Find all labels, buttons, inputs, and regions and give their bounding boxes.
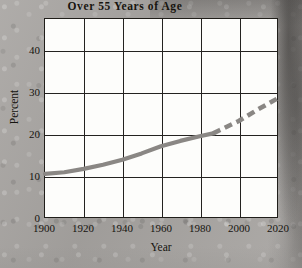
x-tick-2000: 2000 [217,223,261,234]
x-tick-1960: 1960 [139,223,183,234]
chart-title: Over 55 Years of Age [0,0,250,12]
x-tick-1980: 1980 [178,223,222,234]
y-tick-10: 10 [4,171,40,182]
y-axis-tick-labels: 403020100 [0,18,40,218]
chart-page: Over 55 Years of Age 403020100 190019201… [0,0,302,268]
series-solid-segment-0 [45,133,213,173]
data-series-line [45,19,277,217]
x-tick-2020: 2020 [256,223,300,234]
y-tick-40: 40 [4,45,40,56]
series-projected-segment-0 [213,99,277,134]
y-axis-title: Percent [8,72,20,142]
plot-area [44,18,278,218]
x-tick-1920: 1920 [61,223,105,234]
x-axis-tick-labels: 1900192019401960198020002020 [44,223,278,239]
x-tick-1900: 1900 [22,223,66,234]
x-tick-1940: 1940 [100,223,144,234]
x-axis-title: Year [44,241,278,253]
